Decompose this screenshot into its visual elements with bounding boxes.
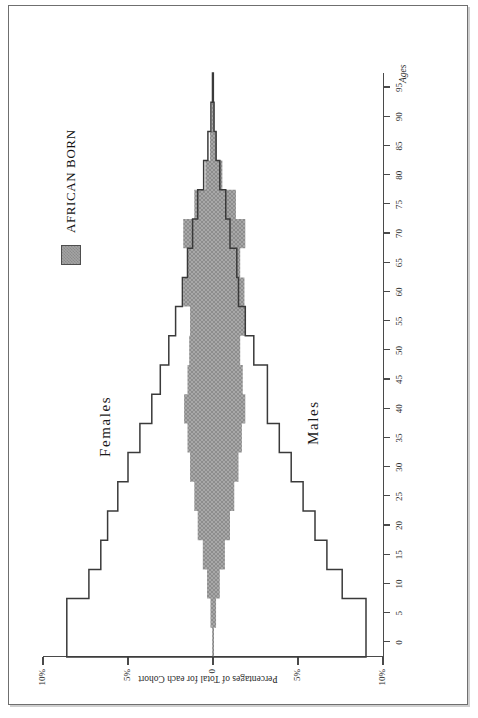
page-frame: 10%5%05%10% 0510152025303540455055606570… [8, 5, 468, 705]
rotated-figure-canvas: 10%5%05%10% 0510152025303540455055606570… [33, 35, 463, 695]
age-axis-title: Ages [398, 65, 408, 83]
pyramid-series-group [33, 35, 463, 695]
legend-label-african-born: AFRICAN BORN [63, 129, 79, 233]
series-label-males: Males [305, 400, 322, 445]
series-label-females: Females [97, 396, 114, 457]
legend: AFRICAN BORN [61, 129, 81, 265]
percentage-axis-title: Percentages of Total for each Cohort [108, 674, 308, 684]
african-born-swatch-icon [61, 245, 81, 265]
population-pyramid-plot: 10%5%05%10% 0510152025303540455055606570… [33, 35, 463, 695]
